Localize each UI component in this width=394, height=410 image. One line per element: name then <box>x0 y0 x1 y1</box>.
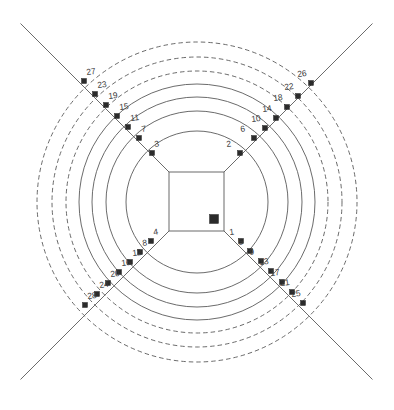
diagonal-spokes-group <box>21 24 373 380</box>
marker-label-17: 17 <box>270 268 280 278</box>
highlight-marker[interactable] <box>210 215 219 224</box>
marker-label-14: 14 <box>262 104 272 114</box>
spoke-line-northwest <box>21 24 169 172</box>
ring-diagram-svg <box>0 0 394 410</box>
highlight-marker-group <box>210 215 219 224</box>
ring-marker-6[interactable] <box>252 136 257 141</box>
marker-label-12: 12 <box>132 248 142 258</box>
ring-7-dashed <box>37 42 357 362</box>
marker-label-8: 8 <box>142 238 148 247</box>
ring-marker-2[interactable] <box>238 151 243 156</box>
marker-label-28: 28 <box>87 291 97 301</box>
marker-label-11: 11 <box>130 113 140 123</box>
ring-marker-28[interactable] <box>83 303 88 308</box>
marker-label-13: 13 <box>259 257 269 267</box>
ring-6-dashed <box>52 57 342 347</box>
ring-marker-26[interactable] <box>309 81 314 86</box>
marker-label-23: 23 <box>97 80 107 90</box>
marker-label-10: 10 <box>251 114 261 124</box>
marker-label-4: 4 <box>153 227 159 236</box>
marker-label-25: 25 <box>291 289 301 299</box>
ring-marker-15[interactable] <box>115 114 120 119</box>
ring-1-solid <box>126 131 268 273</box>
ring-marker-25[interactable] <box>301 301 306 306</box>
ring-marker-27[interactable] <box>82 79 87 84</box>
ring-marker-23[interactable] <box>93 92 98 97</box>
marker-label-3: 3 <box>154 139 160 148</box>
ring-marker-7[interactable] <box>137 136 142 141</box>
marker-label-18: 18 <box>273 93 283 103</box>
marker-label-16: 16 <box>121 258 131 268</box>
marker-label-20: 20 <box>110 269 120 279</box>
marker-label-5: 5 <box>238 237 244 246</box>
ring-marker-18[interactable] <box>285 105 290 110</box>
ring-marker-19[interactable] <box>104 103 109 108</box>
marker-label-1: 1 <box>229 227 235 236</box>
marker-label-22: 22 <box>284 82 294 92</box>
marker-label-19: 19 <box>108 91 118 101</box>
marker-label-26: 26 <box>297 69 307 79</box>
ring-5-dashed <box>66 71 328 333</box>
concentric-rings-group <box>37 42 357 362</box>
marker-label-27: 27 <box>86 67 96 77</box>
ring-marker-22[interactable] <box>296 94 301 99</box>
marker-label-24: 24 <box>99 280 109 290</box>
ring-marker-10[interactable] <box>263 126 268 131</box>
marker-label-7: 7 <box>141 124 147 133</box>
marker-label-6: 6 <box>240 124 246 133</box>
diagram-canvas: 1234567891011121314151617181920212223242… <box>0 0 394 410</box>
marker-label-2: 2 <box>226 139 232 148</box>
marker-label-21: 21 <box>280 278 290 288</box>
ring-marker-11[interactable] <box>126 125 131 130</box>
marker-label-9: 9 <box>249 247 255 256</box>
ring-marker-3[interactable] <box>150 151 155 156</box>
ring-marker-14[interactable] <box>274 116 279 121</box>
marker-label-15: 15 <box>119 102 129 112</box>
ring-marker-4[interactable] <box>149 239 154 244</box>
